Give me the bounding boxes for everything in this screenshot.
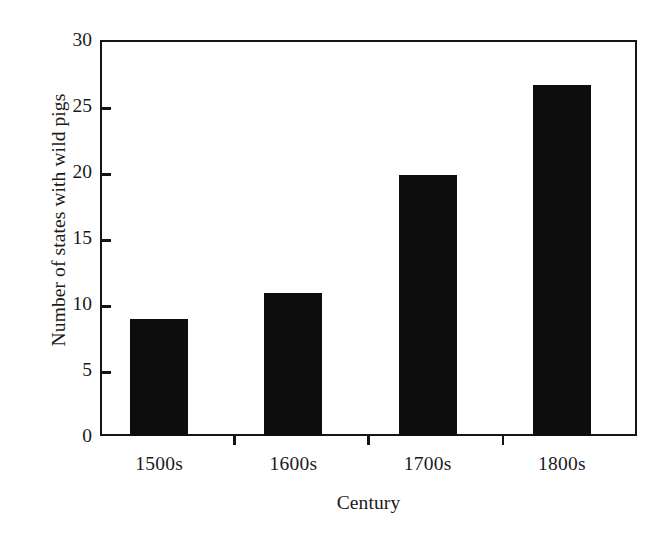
x-axis-tick-labels: 1500s1600s1700s1800s	[100, 452, 637, 480]
x-axis-title: Century	[100, 492, 637, 514]
x-tick-label-1600s: 1600s	[233, 452, 353, 476]
plot-canvas	[100, 40, 637, 436]
y-tick-label-20: 20	[48, 162, 92, 182]
bar-chart-figure: Number of states with wild pigs 05101520…	[0, 0, 669, 538]
y-tick-label-15: 15	[48, 228, 92, 248]
y-tick-label-0: 0	[48, 426, 92, 446]
y-tick-label-30: 30	[48, 30, 92, 50]
x-tick-label-1700s: 1700s	[368, 452, 488, 476]
bar-1700s	[399, 175, 457, 436]
bar-1600s	[264, 293, 322, 436]
x-tick-mark-2	[367, 436, 370, 445]
y-tick-label-5: 5	[48, 360, 92, 380]
x-tick-label-1800s: 1800s	[502, 452, 622, 476]
bar-1500s	[130, 319, 188, 436]
bar-1800s	[533, 85, 591, 436]
y-tick-label-25: 25	[48, 96, 92, 116]
x-tick-mark-3	[502, 436, 505, 445]
x-axis-tick-marks	[100, 436, 637, 448]
x-tick-label-1500s: 1500s	[99, 452, 219, 476]
y-axis-tick-labels: 051015202530	[40, 0, 92, 538]
x-tick-mark-1	[233, 436, 236, 445]
y-tick-label-10: 10	[48, 294, 92, 314]
